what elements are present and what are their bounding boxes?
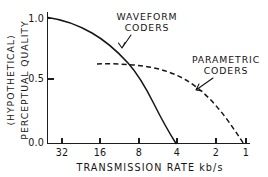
x-axis-title: TRANSMISSION RATE kb/s [75, 162, 223, 173]
x-tick-labels: 32 16 8 4 2 1 [56, 147, 249, 158]
y-tick-labels: 0.0 0.5 1.0 [28, 13, 44, 148]
chart-canvas: (HYPOTHETICAL) PERCEPTUAL QUALITY 0.0 0.… [0, 0, 268, 177]
annotation-waveform-leader-line [119, 35, 132, 48]
x-tick-label-4: 2 [213, 147, 219, 158]
x-tick-label-2: 8 [136, 147, 142, 158]
annotation-parametric-line2: CODERS [204, 65, 249, 76]
y-tick-label-1: 0.5 [28, 73, 44, 84]
y-tick-label-0: 0.0 [28, 137, 44, 148]
annotation-waveform-line2: CODERS [125, 22, 170, 33]
x-tick-label-5: 1 [243, 147, 249, 158]
annotation-waveform-line1: WAVEFORM [116, 11, 177, 22]
annotation-parametric-line1: PARAMETRIC [192, 54, 260, 65]
y-tick-label-2: 1.0 [28, 13, 44, 24]
x-tick-label-1: 16 [94, 147, 107, 158]
x-tick-label-0: 32 [56, 147, 69, 158]
annotation-waveform-coders: WAVEFORM CODERS [116, 11, 177, 48]
y-axis-label-line1: (HYPOTHETICAL) [5, 34, 16, 125]
y-axis-label: (HYPOTHETICAL) PERCEPTUAL QUALITY [5, 20, 30, 139]
chart-figure: (HYPOTHETICAL) PERCEPTUAL QUALITY 0.0 0.… [0, 0, 268, 177]
x-tick-label-3: 4 [174, 147, 180, 158]
waveform-coders-curve [48, 18, 176, 144]
annotation-parametric-coders: PARAMETRIC CODERS [192, 54, 260, 91]
